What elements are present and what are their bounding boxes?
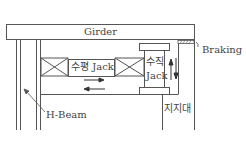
vertical-jack-label-2: Jack	[146, 71, 168, 81]
jack-diagram	[0, 0, 246, 148]
support-label: 지지대	[164, 104, 191, 114]
braking-pointer-icon	[196, 42, 198, 47]
h-beam-pointer-icon	[24, 89, 45, 112]
vertical-arrows	[169, 58, 178, 80]
h-beam-posts	[17, 40, 41, 130]
braking-label: Braking	[202, 45, 242, 55]
h-beam-label: H-Beam	[46, 110, 87, 120]
girder-label: Girder	[84, 27, 117, 37]
horizontal-arrows	[84, 78, 105, 91]
vertical-jack-label-1: 수직	[146, 57, 164, 67]
vertical-jack	[140, 44, 170, 95]
horizontal-jack-label: 수평 Jack	[71, 62, 114, 72]
